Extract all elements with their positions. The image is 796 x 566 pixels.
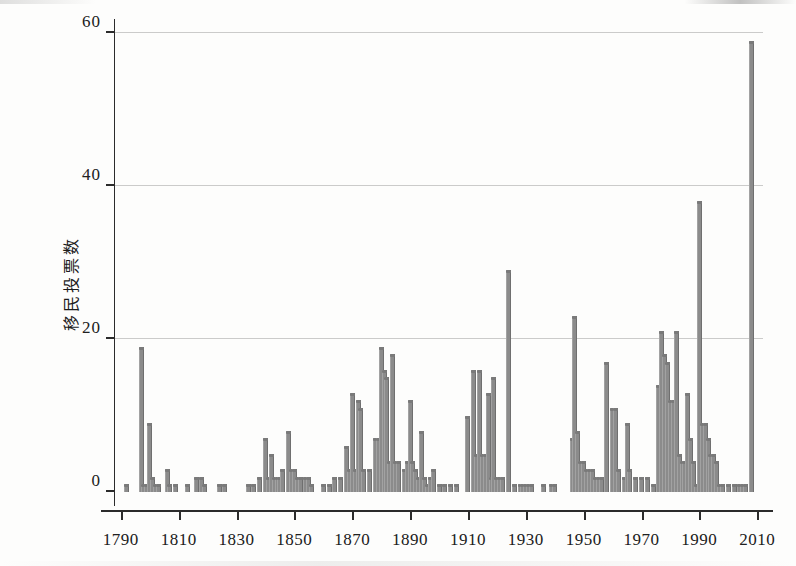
bar <box>651 484 656 492</box>
bar <box>321 484 326 492</box>
bar <box>442 484 447 492</box>
bar <box>298 477 303 492</box>
x-tick <box>294 511 296 520</box>
x-tick-label: 1790 <box>103 530 139 550</box>
bar <box>173 484 178 492</box>
bar <box>124 484 129 492</box>
bar <box>491 377 496 492</box>
x-tick <box>121 511 123 520</box>
x-tick <box>642 511 644 520</box>
x-tick <box>179 511 181 520</box>
bar <box>361 469 366 492</box>
bar <box>257 477 262 492</box>
x-tick-label: 1910 <box>450 530 486 550</box>
x-tick-label: 1990 <box>681 530 717 550</box>
bar <box>599 477 604 492</box>
bar <box>541 484 546 492</box>
bar <box>139 347 144 492</box>
x-tick <box>526 511 528 520</box>
bar <box>396 461 401 492</box>
x-tick <box>352 511 354 520</box>
x-tick <box>699 511 701 520</box>
bar <box>156 484 161 492</box>
bar <box>749 41 754 492</box>
bar <box>431 469 436 492</box>
x-tick-label: 1930 <box>508 530 544 550</box>
chart-figure: 移民投票数 0204060 17901810183018501870189019… <box>0 0 796 566</box>
bar <box>500 477 505 492</box>
x-tick-label: 2010 <box>739 530 775 550</box>
scan-artifact-bottom <box>0 561 796 566</box>
x-tick-label: 1970 <box>624 530 660 550</box>
y-tick-label: 60 <box>82 12 101 32</box>
x-tick-label: 1830 <box>219 530 255 550</box>
bar <box>194 477 199 492</box>
x-tick <box>468 511 470 520</box>
y-axis-line <box>114 19 115 506</box>
bar <box>338 477 343 492</box>
gridline <box>115 338 763 339</box>
bar <box>448 484 453 492</box>
bar <box>202 484 207 492</box>
bar <box>726 484 731 492</box>
scan-artifact-top <box>0 0 796 4</box>
y-tick <box>106 31 115 33</box>
bar <box>633 477 638 492</box>
bar <box>454 484 459 492</box>
bar <box>645 477 650 492</box>
x-tick <box>410 511 412 520</box>
bar <box>506 270 511 492</box>
x-tick-label: 1890 <box>392 530 428 550</box>
bar <box>367 469 372 492</box>
x-axis-line <box>101 510 773 512</box>
bar <box>465 416 470 493</box>
x-tick <box>757 511 759 520</box>
gridline <box>115 185 763 186</box>
bar <box>720 484 725 492</box>
bar <box>309 484 314 492</box>
bar <box>552 484 557 492</box>
bar <box>280 469 285 492</box>
y-tick-label: 20 <box>82 318 101 338</box>
bar <box>167 484 172 492</box>
bar <box>604 362 609 492</box>
plot-area: 0204060 17901810183018501870189019101930… <box>115 33 763 492</box>
bar <box>616 469 621 492</box>
gridline <box>115 32 763 33</box>
bar <box>251 484 256 492</box>
bar <box>743 484 748 492</box>
x-tick <box>237 511 239 520</box>
bar <box>529 484 534 492</box>
bar <box>222 484 227 492</box>
y-tick <box>106 184 115 186</box>
x-tick <box>584 511 586 520</box>
x-tick-label: 1850 <box>276 530 312 550</box>
y-tick <box>106 337 115 339</box>
bar <box>217 484 222 492</box>
bar <box>639 477 644 492</box>
y-axis-title: 移民投票数 <box>58 236 82 331</box>
bar <box>437 484 442 492</box>
bar <box>732 484 737 492</box>
bar <box>246 484 251 492</box>
y-tick-label: 0 <box>92 471 102 491</box>
y-tick <box>106 490 115 492</box>
bar <box>185 484 190 492</box>
x-tick-label: 1950 <box>566 530 602 550</box>
y-tick-label: 40 <box>82 165 101 185</box>
x-tick-label: 1870 <box>334 530 370 550</box>
bar <box>332 477 337 492</box>
x-tick-label: 1810 <box>161 530 197 550</box>
bar <box>327 484 332 492</box>
bar <box>512 484 517 492</box>
bar <box>627 469 632 492</box>
